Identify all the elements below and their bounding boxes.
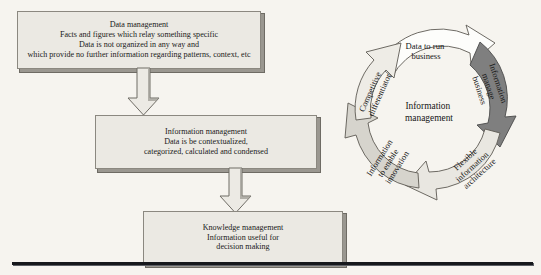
- cycle-segment-flexible-information-architecture: Flexible information architecture: [405, 129, 500, 200]
- box-data-management-line-4: which provide no further information reg…: [28, 50, 251, 60]
- cycle-center-line-2: management: [405, 113, 453, 123]
- cycle-center-line-1: Information: [405, 101, 450, 111]
- cycle-label-line-1: Data to run: [406, 41, 445, 51]
- cycle-segment-competitive-differentiator: Competitive differentiator: [355, 43, 401, 120]
- box-knowledge-management-line-3: decision making: [216, 242, 269, 252]
- box-information-management-line-1: Information management: [165, 127, 247, 137]
- arrow-down-shape: [220, 168, 251, 213]
- box-data-management-line-3: Data is not organized in any way and: [79, 40, 199, 50]
- arrow-information-to-knowledge: [218, 168, 254, 214]
- box-knowledge-management-line-1: Knowledge management: [203, 223, 284, 233]
- cycle-center-label: Information management: [405, 101, 453, 123]
- arrow-down-shading: [240, 169, 251, 199]
- information-management-cycle: Data to run business Information manage …: [330, 8, 536, 216]
- box-data-management: Data management Facts and figures which …: [17, 11, 261, 69]
- box-information-management-line-2: Data is be contextualized,: [164, 137, 248, 147]
- arrow-down-shading: [148, 69, 159, 101]
- cycle-label-data-to-run-business: Data to run business: [406, 41, 447, 61]
- box-information-management-line-3: categorized, calculated and condensed: [144, 147, 268, 157]
- diagram-canvas: Data management Facts and figures which …: [0, 0, 541, 275]
- arrow-data-to-information: [126, 68, 162, 116]
- arrow-down-shape: [128, 68, 159, 115]
- box-knowledge-management-line-2: Information useful for: [207, 233, 279, 243]
- box-knowledge-management: Knowledge management Information useful …: [143, 211, 343, 264]
- cycle-label-line-2: business: [411, 51, 441, 61]
- box-data-management-line-1: Data management: [110, 20, 169, 30]
- box-information-management: Information management Data is be contex…: [95, 115, 317, 169]
- box-data-management-line-2: Facts and figures which relay something …: [60, 30, 218, 40]
- bottom-divider: [12, 262, 533, 265]
